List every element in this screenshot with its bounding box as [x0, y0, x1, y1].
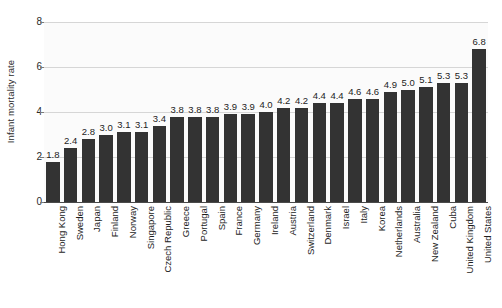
- bar: [437, 83, 450, 202]
- bar: [241, 114, 254, 202]
- x-axis-category-label: Korea: [377, 206, 387, 231]
- x-axis-category-label: Austria: [288, 206, 298, 236]
- bar: [313, 103, 326, 202]
- x-axis-category-label: Cuba: [448, 206, 458, 229]
- bar-value-label: 5.3: [435, 71, 453, 81]
- x-axis-category-label: Portugal: [199, 206, 209, 241]
- bar-value-label: 3.8: [168, 105, 186, 115]
- x-axis-category-label: Germany: [252, 206, 262, 245]
- bar: [401, 90, 414, 203]
- bar-value-label: 3.9: [239, 102, 257, 112]
- bar: [419, 87, 432, 202]
- bar: [224, 114, 237, 202]
- bar-value-label: 5.1: [417, 75, 435, 85]
- bar: [384, 92, 397, 202]
- bar-value-label: 3.1: [133, 120, 151, 130]
- x-axis-category-label: Italy: [359, 206, 369, 223]
- x-axis-category-label: Switzerland: [306, 206, 316, 255]
- y-axis-tick-label: 6: [20, 62, 42, 72]
- bar-value-label: 3.8: [204, 105, 222, 115]
- bar-value-label: 6.8: [470, 37, 488, 47]
- bar-value-label: 3.0: [97, 123, 115, 133]
- bar-value-label: 4.9: [381, 80, 399, 90]
- y-axis-title: Infant mortality rate: [2, 0, 20, 202]
- bar-value-label: 1.8: [44, 150, 62, 160]
- plot-area: [44, 22, 488, 202]
- x-axis-category-label: Denmark: [323, 206, 333, 245]
- bar: [259, 112, 272, 202]
- x-axis-category-label: United Kingdom: [465, 206, 475, 274]
- bar-value-label: 3.1: [115, 120, 133, 130]
- bar-value-label: 4.6: [346, 87, 364, 97]
- bar: [46, 162, 59, 203]
- x-axis-category-label: New Zealand: [430, 206, 440, 262]
- bar-value-label: 4.0: [257, 100, 275, 110]
- x-axis-category-label: Greece: [181, 206, 191, 237]
- bar-value-label: 5.0: [399, 78, 417, 88]
- x-axis-category-label: Singapore: [146, 206, 156, 249]
- bar: [366, 99, 379, 203]
- bar: [455, 83, 468, 202]
- bar-value-label: 4.6: [364, 87, 382, 97]
- bar: [295, 108, 308, 203]
- bar: [330, 103, 343, 202]
- y-axis-tick-label: 8: [20, 17, 42, 27]
- x-axis-category-label: Sweden: [75, 206, 85, 240]
- x-axis-line: [44, 202, 488, 203]
- x-axis-category-label: Australia: [412, 206, 422, 243]
- bar: [99, 135, 112, 203]
- x-axis-category-label: Norway: [128, 206, 138, 238]
- y-axis-tick-label: 2: [20, 152, 42, 162]
- bar-value-label: 4.4: [328, 91, 346, 101]
- chart-figure: Infant mortality rate 02468 1.82.42.83.0…: [0, 0, 502, 308]
- x-axis-category-label: Israel: [341, 206, 351, 229]
- bar: [117, 132, 130, 202]
- bar: [348, 99, 361, 203]
- bar-value-label: 3.8: [186, 105, 204, 115]
- bar-value-label: 2.8: [80, 127, 98, 137]
- bar: [277, 108, 290, 203]
- bar-value-label: 4.4: [310, 91, 328, 101]
- bar: [153, 126, 166, 203]
- bar: [188, 117, 201, 203]
- bar-value-label: 4.2: [275, 96, 293, 106]
- y-axis-tick-label: 0: [20, 197, 42, 207]
- y-axis-tick-label: 4: [20, 107, 42, 117]
- bar-value-label: 3.9: [222, 102, 240, 112]
- bar: [206, 117, 219, 203]
- x-axis-category-label: Hong Kong: [57, 206, 67, 254]
- bar: [135, 132, 148, 202]
- x-axis-category-label: Ireland: [270, 206, 280, 235]
- gridline: [44, 67, 488, 68]
- x-axis-category-label: Finland: [110, 206, 120, 237]
- bar-value-label: 2.4: [62, 136, 80, 146]
- bar: [170, 117, 183, 203]
- x-axis-category-label: United States: [483, 206, 493, 263]
- x-axis-category-label: Spain: [217, 206, 227, 230]
- x-axis-category-label: Japan: [92, 206, 102, 232]
- bar: [472, 49, 485, 202]
- y-axis-title-text: Infant mortality rate: [6, 59, 17, 142]
- bar-value-label: 5.3: [452, 71, 470, 81]
- bar-value-label: 3.4: [151, 114, 169, 124]
- x-axis-category-label: France: [234, 206, 244, 236]
- gridline: [44, 22, 488, 23]
- bar: [64, 148, 77, 202]
- x-axis-category-label: Czech Republic: [163, 206, 173, 273]
- bar: [82, 139, 95, 202]
- bar-value-label: 4.2: [293, 96, 311, 106]
- x-axis-category-label: Netherlands: [394, 206, 404, 257]
